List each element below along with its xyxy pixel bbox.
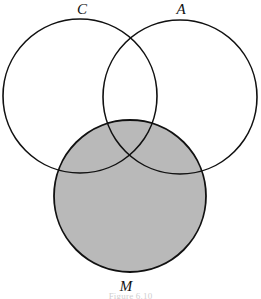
set-label-a: A (175, 1, 186, 17)
venn-diagram-figure: C A M Figure 6.10 (0, 0, 261, 299)
venn-diagram-canvas: C A M (0, 0, 261, 299)
set-label-c: C (77, 1, 88, 17)
figure-caption: Figure 6.10 (0, 291, 261, 299)
